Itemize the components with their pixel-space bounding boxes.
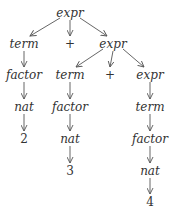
node-literal-2: 2 xyxy=(20,133,28,145)
node-nat-3: nat xyxy=(140,165,160,177)
node-factor-2: factor xyxy=(52,101,88,113)
node-expr-2: expr xyxy=(99,38,126,50)
edge-arrow xyxy=(76,49,103,67)
node-nat-1: nat xyxy=(14,101,34,113)
edge-arrow xyxy=(123,49,144,67)
node-plus-2: + xyxy=(105,69,115,81)
node-expr-root: expr xyxy=(56,7,83,19)
node-term-1: term xyxy=(9,38,38,50)
node-plus-1: + xyxy=(65,38,75,50)
edge-arrow xyxy=(30,18,60,36)
node-literal-4: 4 xyxy=(146,196,154,208)
node-term-3: term xyxy=(135,101,164,113)
node-nat-2: nat xyxy=(60,133,80,145)
parse-tree-diagram: expr term + expr factor term + expr nat … xyxy=(0,0,174,212)
edge-arrow xyxy=(80,18,107,36)
node-literal-3: 3 xyxy=(66,165,74,177)
node-expr-3: expr xyxy=(136,69,163,81)
node-factor-3: factor xyxy=(132,133,168,145)
edge-arrow xyxy=(110,51,113,67)
node-factor-1: factor xyxy=(6,69,42,81)
node-term-2: term xyxy=(55,69,84,81)
